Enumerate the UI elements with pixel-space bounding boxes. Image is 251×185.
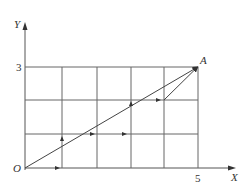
grid-diagram: Y X O 3 5 A: [0, 0, 251, 185]
y-axis: [23, 22, 28, 170]
line-oa: [25, 68, 196, 168]
point-a-label: A: [199, 54, 207, 66]
origin-label: O: [13, 162, 21, 174]
y-tick-label: 3: [16, 61, 22, 73]
y-axis-label: Y: [14, 18, 22, 30]
x-tick-label: 5: [195, 172, 201, 184]
x-axis-label: X: [230, 171, 239, 183]
